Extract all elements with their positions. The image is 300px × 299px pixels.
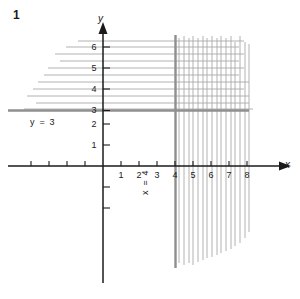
y-axis-label: y — [98, 14, 103, 24]
x-tick-label: 3 — [151, 171, 163, 180]
x-tick-label: 4 — [169, 171, 181, 180]
y-equals-3-label: y = 3 — [30, 118, 56, 127]
y-tick-label: 3 — [88, 106, 100, 115]
x-tick-label: 6 — [205, 171, 217, 180]
x-tick-label: 7 — [223, 171, 235, 180]
y-tick-label: 1 — [88, 141, 100, 150]
x-tick-label: 5 — [187, 171, 199, 180]
y-tick-label: 6 — [88, 43, 100, 52]
x-tick-label: 8 — [241, 171, 253, 180]
x-equals-4-label: x = 4 — [141, 169, 150, 195]
vertical-hatch-group — [179, 36, 249, 265]
graph-figure: 1 — [0, 0, 300, 299]
x-axis-label: x — [285, 160, 290, 170]
y-tick-label: 2 — [88, 120, 100, 129]
y-tick-label: 4 — [88, 85, 100, 94]
x-tick-label: 1 — [115, 171, 127, 180]
horizontal-hatch-group — [24, 41, 253, 109]
y-axis-ticks — [103, 47, 110, 208]
coordinate-plane-svg — [0, 0, 300, 299]
y-tick-label: 5 — [88, 64, 100, 73]
